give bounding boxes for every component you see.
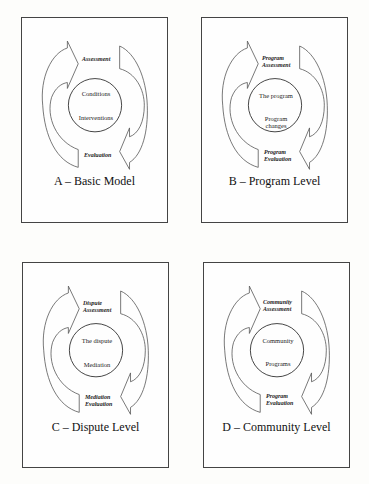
panel-dispute-level: DisputeAssessment MediationEvaluation Th… bbox=[22, 262, 169, 468]
panel-community-level: CommunityAssessment ProgramEvaluation Co… bbox=[203, 262, 350, 468]
left-cycle-arrow bbox=[42, 41, 78, 167]
inner-top-label: The program bbox=[248, 92, 304, 99]
evaluation-label: ProgramEvaluation bbox=[264, 149, 291, 163]
inner-bottom-label: Programchanges bbox=[248, 115, 304, 129]
inner-bottom-label: Mediation bbox=[69, 361, 125, 368]
panel-title: B – Program Level bbox=[202, 174, 347, 189]
panel-title: D – Community Level bbox=[204, 420, 349, 435]
assessment-label: CommunityAssessment bbox=[263, 299, 292, 313]
right-cycle-arrow bbox=[302, 291, 330, 414]
right-cycle-arrow bbox=[121, 291, 149, 414]
center-circle bbox=[69, 324, 122, 377]
evaluation-label: ProgramEvaluation bbox=[266, 393, 293, 407]
evaluation-label: MediationEvaluation bbox=[85, 394, 112, 408]
left-cycle-arrow bbox=[224, 286, 260, 412]
inner-top-label: Conditions bbox=[68, 90, 124, 97]
evaluation-label: Evaluation bbox=[84, 152, 111, 159]
left-cycle-arrow bbox=[222, 41, 258, 167]
right-cycle-arrow bbox=[300, 46, 328, 169]
panel-basic-model: Assessment Evaluation Conditions Interve… bbox=[21, 17, 168, 223]
assessment-label: Assessment bbox=[82, 56, 110, 63]
inner-top-label: Community bbox=[250, 337, 306, 344]
left-cycle-arrow bbox=[43, 286, 79, 412]
inner-top-label: The dispute bbox=[69, 337, 125, 344]
panel-program-level: ProgramAssessment ProgramEvaluation The … bbox=[201, 17, 348, 223]
panel-title: C – Dispute Level bbox=[23, 420, 168, 435]
assessment-label: ProgramAssessment bbox=[262, 55, 290, 69]
inner-bottom-label: Interventions bbox=[68, 114, 124, 121]
panel-title: A – Basic Model bbox=[22, 174, 167, 189]
inner-bottom-label: Programs bbox=[250, 360, 306, 367]
assessment-label: DisputeAssessment bbox=[83, 300, 111, 314]
center-circle bbox=[250, 324, 303, 377]
right-cycle-arrow bbox=[120, 46, 148, 169]
center-circle bbox=[68, 79, 121, 132]
